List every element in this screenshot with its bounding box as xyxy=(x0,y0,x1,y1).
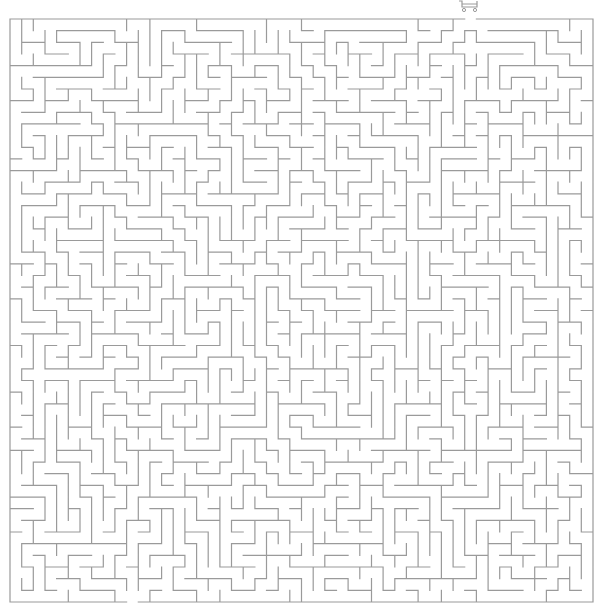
shopping-cart-icon xyxy=(458,0,480,12)
maze-wall-path xyxy=(10,19,593,602)
maze-walls xyxy=(0,0,600,613)
maze-board[interactable] xyxy=(0,0,600,613)
